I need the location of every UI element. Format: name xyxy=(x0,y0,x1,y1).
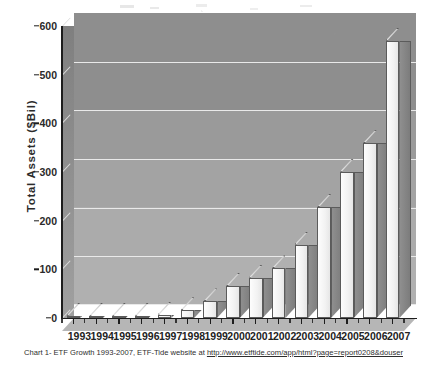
bar-top-face xyxy=(135,303,149,316)
bar-2003 xyxy=(295,245,309,318)
bar-top-face xyxy=(340,159,354,172)
bar-top-face xyxy=(386,28,400,41)
bar-top-face xyxy=(272,255,286,268)
bar-2000 xyxy=(226,286,240,318)
caption-url-link[interactable]: http://www.etftide.com/app/html?page=rep… xyxy=(207,348,403,357)
chart-caption: Chart 1- ETF Growth 1993-2007, ETF-Tide … xyxy=(24,348,403,357)
x-tick-label-2007: 2007 xyxy=(387,330,410,342)
x-tick-label-1996: 1996 xyxy=(136,330,159,342)
bar-front-face xyxy=(203,301,217,318)
bar-top-face xyxy=(203,288,217,301)
x-tick-label-2004: 2004 xyxy=(319,330,342,342)
bar-side-face xyxy=(399,41,411,318)
bar-1999 xyxy=(203,301,217,318)
x-tick-label-1998: 1998 xyxy=(182,330,205,342)
y-tick-label: 600 xyxy=(39,20,57,32)
bar-front-face xyxy=(363,143,377,318)
bar-front-face xyxy=(249,278,263,318)
x-tick-label-1999: 1999 xyxy=(205,330,228,342)
bar-top-face xyxy=(226,273,240,286)
bar-top-face xyxy=(89,303,103,316)
y-tick-label: 100 xyxy=(39,263,57,275)
bar-top-face xyxy=(363,130,377,143)
y-tick-label: 0 xyxy=(51,312,57,324)
bar-top-face xyxy=(158,302,172,315)
bar-2005 xyxy=(340,172,354,318)
bar-front-face xyxy=(272,268,286,318)
y-tick-label: 400 xyxy=(39,117,57,129)
bar-top-face xyxy=(181,297,195,310)
bar-top-face xyxy=(249,265,263,278)
bar-2001 xyxy=(249,278,263,318)
bar-top-face xyxy=(295,232,309,245)
etf-growth-bar-chart: Total Assets ($Bil) 0 100 200 xyxy=(0,0,429,375)
bar-top-face xyxy=(112,303,126,316)
bar-front-face xyxy=(295,245,309,318)
x-tick-label-2000: 2000 xyxy=(227,330,250,342)
bar-front-face xyxy=(386,41,400,318)
bar-top-face xyxy=(317,194,331,207)
caption-text: Chart 1- ETF Growth 1993-2007, ETF-Tide … xyxy=(24,348,207,357)
y-tick-label: 200 xyxy=(39,215,57,227)
bar-front-face xyxy=(317,207,331,318)
x-tick-label-1997: 1997 xyxy=(159,330,182,342)
bar-2002 xyxy=(272,268,286,318)
x-tick-label-1995: 1995 xyxy=(113,330,136,342)
bar-front-face xyxy=(226,286,240,318)
y-axis-line xyxy=(61,26,63,319)
x-tick-label-2005: 2005 xyxy=(341,330,364,342)
x-tick-label-2006: 2006 xyxy=(364,330,387,342)
bar-top-face xyxy=(67,303,81,316)
bar-2007 xyxy=(386,41,400,318)
bar-series xyxy=(62,26,416,318)
x-tick-label-1994: 1994 xyxy=(91,330,114,342)
bar-2006 xyxy=(363,143,377,318)
x-tick-label-1993: 1993 xyxy=(68,330,91,342)
x-axis-ticks xyxy=(62,318,428,326)
x-tick-label-2002: 2002 xyxy=(273,330,296,342)
y-tick-label: 500 xyxy=(39,69,57,81)
bar-front-face xyxy=(340,172,354,318)
bar-2004 xyxy=(317,207,331,318)
y-tick-label: 300 xyxy=(39,166,57,178)
x-tick-label-2001: 2001 xyxy=(250,330,273,342)
plot-area: 0 100 200 300 400 500 600 xyxy=(62,26,416,318)
x-tick-label-2003: 2003 xyxy=(296,330,319,342)
x-axis-labels: 1993199419951996199719981999200020012002… xyxy=(0,330,429,344)
